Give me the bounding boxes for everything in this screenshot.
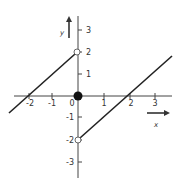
filled-point-origin xyxy=(74,92,83,101)
x-tick-label: -2 xyxy=(26,99,34,108)
y-tick-label: 3 xyxy=(86,26,91,35)
x-axis-label: x xyxy=(153,121,159,129)
y-tick-label: -3 xyxy=(66,158,74,167)
open-circle-marker xyxy=(75,137,81,143)
x-tick-label: 1 xyxy=(101,99,106,108)
y-tick-label: 1 xyxy=(86,70,91,79)
y-tick-label: -1 xyxy=(66,113,74,122)
y-arrowhead-icon xyxy=(66,16,72,22)
x-arrowhead-icon xyxy=(164,110,170,116)
open-circle-marker xyxy=(74,49,80,55)
left-branch-line xyxy=(9,54,75,113)
x-tick-label: -1 xyxy=(48,99,56,108)
x-tick-label: 0 xyxy=(69,99,74,108)
piecewise-function-graph: -2 -1 0 1 2 3 3 2 1 -1 -2 -3 y x xyxy=(0,0,184,185)
x-tick-label: 3 xyxy=(152,99,157,108)
x-tick-label: 2 xyxy=(128,99,133,108)
y-tick-label: -2 xyxy=(66,136,74,145)
right-branch-line xyxy=(80,56,172,138)
y-axis-label: y xyxy=(59,29,65,37)
y-tick-label: 2 xyxy=(86,48,91,57)
